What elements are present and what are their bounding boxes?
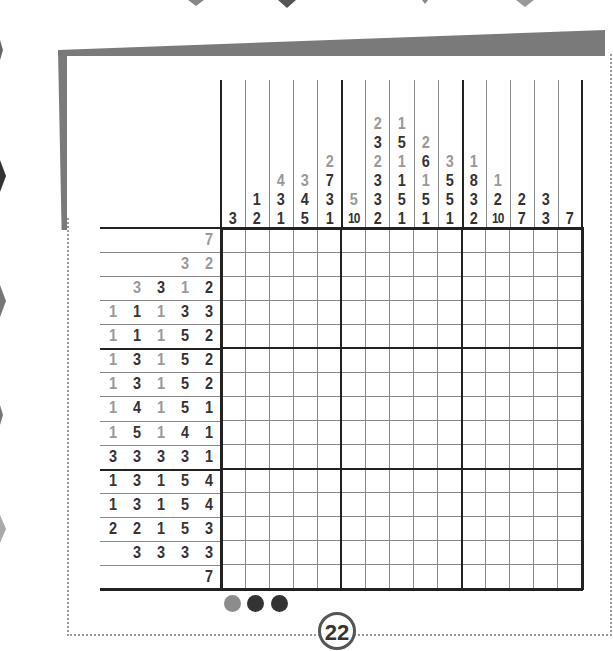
grid-cell[interactable] bbox=[414, 565, 439, 590]
grid-cell[interactable] bbox=[534, 493, 559, 518]
grid-cell[interactable] bbox=[462, 469, 487, 494]
grid-cell[interactable] bbox=[558, 276, 583, 301]
grid-cell[interactable] bbox=[269, 541, 294, 566]
grid-cell[interactable] bbox=[462, 396, 487, 421]
grid-cell[interactable] bbox=[389, 517, 414, 542]
grid-cell[interactable] bbox=[221, 228, 246, 253]
grid-cell[interactable] bbox=[510, 565, 535, 590]
grid-cell[interactable] bbox=[534, 517, 559, 542]
grid-cell[interactable] bbox=[269, 469, 294, 494]
grid-cell[interactable] bbox=[317, 300, 342, 325]
grid-cell[interactable] bbox=[341, 228, 366, 253]
grid-cell[interactable] bbox=[462, 276, 487, 301]
grid-cell[interactable] bbox=[341, 276, 366, 301]
grid-cell[interactable] bbox=[558, 469, 583, 494]
grid-cell[interactable] bbox=[293, 565, 318, 590]
grid-cell[interactable] bbox=[414, 300, 439, 325]
grid-cell[interactable] bbox=[245, 372, 270, 397]
grid-cell[interactable] bbox=[269, 517, 294, 542]
grid-cell[interactable] bbox=[269, 276, 294, 301]
grid-cell[interactable] bbox=[486, 396, 511, 421]
grid-cell[interactable] bbox=[462, 517, 487, 542]
grid-cell[interactable] bbox=[341, 517, 366, 542]
grid-cell[interactable] bbox=[365, 348, 390, 373]
grid-cell[interactable] bbox=[317, 565, 342, 590]
grid-cell[interactable] bbox=[486, 348, 511, 373]
grid-cell[interactable] bbox=[221, 469, 246, 494]
grid-cell[interactable] bbox=[317, 372, 342, 397]
grid-cell[interactable] bbox=[462, 324, 487, 349]
grid-cell[interactable] bbox=[245, 517, 270, 542]
grid-cell[interactable] bbox=[558, 396, 583, 421]
grid-cell[interactable] bbox=[365, 541, 390, 566]
grid-cell[interactable] bbox=[510, 493, 535, 518]
grid-cell[interactable] bbox=[462, 445, 487, 470]
grid-cell[interactable] bbox=[293, 348, 318, 373]
grid-cell[interactable] bbox=[341, 541, 366, 566]
grid-cell[interactable] bbox=[221, 421, 246, 446]
grid-cell[interactable] bbox=[221, 348, 246, 373]
grid-cell[interactable] bbox=[414, 396, 439, 421]
grid-cell[interactable] bbox=[462, 421, 487, 446]
grid-cell[interactable] bbox=[510, 252, 535, 277]
grid-cell[interactable] bbox=[534, 324, 559, 349]
grid-cell[interactable] bbox=[341, 421, 366, 446]
grid-cell[interactable] bbox=[510, 276, 535, 301]
grid-cell[interactable] bbox=[365, 324, 390, 349]
grid-cell[interactable] bbox=[269, 372, 294, 397]
grid-cell[interactable] bbox=[317, 228, 342, 253]
grid-cell[interactable] bbox=[534, 396, 559, 421]
grid-cell[interactable] bbox=[558, 445, 583, 470]
grid-cell[interactable] bbox=[365, 469, 390, 494]
grid-cell[interactable] bbox=[510, 228, 535, 253]
grid-cell[interactable] bbox=[341, 565, 366, 590]
grid-cell[interactable] bbox=[558, 372, 583, 397]
grid-cell[interactable] bbox=[558, 324, 583, 349]
grid-cell[interactable] bbox=[510, 517, 535, 542]
grid-cell[interactable] bbox=[317, 276, 342, 301]
grid-cell[interactable] bbox=[269, 324, 294, 349]
grid-cell[interactable] bbox=[221, 541, 246, 566]
grid-cell[interactable] bbox=[365, 565, 390, 590]
grid-cell[interactable] bbox=[438, 469, 463, 494]
grid-cell[interactable] bbox=[462, 300, 487, 325]
grid-cell[interactable] bbox=[341, 324, 366, 349]
grid-cell[interactable] bbox=[534, 445, 559, 470]
grid-cell[interactable] bbox=[245, 348, 270, 373]
grid-cell[interactable] bbox=[510, 421, 535, 446]
grid-cell[interactable] bbox=[245, 493, 270, 518]
grid-cell[interactable] bbox=[414, 445, 439, 470]
grid-cell[interactable] bbox=[558, 565, 583, 590]
grid-cell[interactable] bbox=[414, 228, 439, 253]
grid-cell[interactable] bbox=[389, 565, 414, 590]
grid-cell[interactable] bbox=[558, 300, 583, 325]
grid-cell[interactable] bbox=[269, 421, 294, 446]
grid-cell[interactable] bbox=[389, 300, 414, 325]
grid-cell[interactable] bbox=[221, 372, 246, 397]
grid-cell[interactable] bbox=[269, 300, 294, 325]
grid-cell[interactable] bbox=[389, 228, 414, 253]
grid-cell[interactable] bbox=[389, 493, 414, 518]
grid-cell[interactable] bbox=[486, 469, 511, 494]
grid-cell[interactable] bbox=[486, 228, 511, 253]
grid-cell[interactable] bbox=[317, 252, 342, 277]
grid-cell[interactable] bbox=[365, 252, 390, 277]
grid-cell[interactable] bbox=[534, 252, 559, 277]
grid-cell[interactable] bbox=[510, 300, 535, 325]
grid-cell[interactable] bbox=[414, 348, 439, 373]
grid-cell[interactable] bbox=[245, 565, 270, 590]
grid-cell[interactable] bbox=[365, 493, 390, 518]
grid-cell[interactable] bbox=[486, 324, 511, 349]
grid-cell[interactable] bbox=[438, 541, 463, 566]
grid-cell[interactable] bbox=[486, 493, 511, 518]
grid-cell[interactable] bbox=[293, 421, 318, 446]
grid-cell[interactable] bbox=[293, 300, 318, 325]
grid-cell[interactable] bbox=[414, 276, 439, 301]
grid-cell[interactable] bbox=[221, 324, 246, 349]
grid-cell[interactable] bbox=[245, 300, 270, 325]
grid-cell[interactable] bbox=[389, 541, 414, 566]
grid-cell[interactable] bbox=[293, 324, 318, 349]
grid-cell[interactable] bbox=[510, 469, 535, 494]
grid-cell[interactable] bbox=[414, 372, 439, 397]
grid-cell[interactable] bbox=[534, 541, 559, 566]
